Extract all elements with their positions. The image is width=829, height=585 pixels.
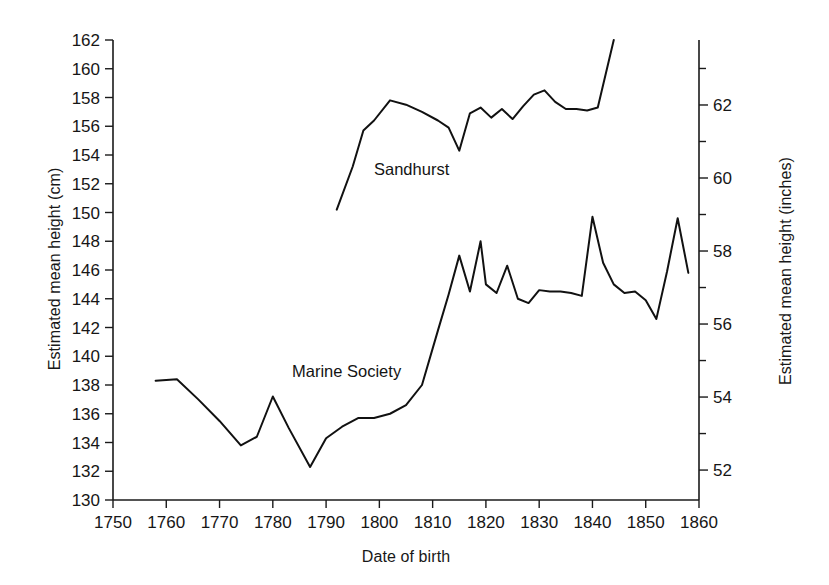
left-axis-tick-labels: 1301321341361381401421441461481501521541… — [72, 31, 100, 510]
x-tick-label: 1810 — [414, 513, 452, 532]
y-tick-label-left: 150 — [72, 204, 100, 223]
series-line-sandhurst — [337, 40, 614, 210]
x-tick-label: 1850 — [627, 513, 665, 532]
y-tick-label-left: 154 — [72, 146, 100, 165]
y-tick-label-left: 140 — [72, 347, 100, 366]
y-axis-title-left: Estimated mean height (cm) — [46, 119, 64, 419]
axes — [113, 40, 699, 500]
x-tick-label: 1790 — [307, 513, 345, 532]
y-tick-label-left: 130 — [72, 491, 100, 510]
chart-figure: 1301321341361381401421441461481501521541… — [0, 0, 829, 585]
y-tick-label-left: 132 — [72, 462, 100, 481]
y-tick-label-right: 60 — [713, 169, 732, 188]
y-tick-label-left: 138 — [72, 376, 100, 395]
left-axis-ticks — [105, 40, 113, 500]
y-axis-title-right: Estimated mean height (inches) — [777, 121, 795, 421]
y-tick-label-left: 158 — [72, 89, 100, 108]
x-axis-title: Date of birth — [113, 548, 699, 566]
x-tick-label: 1770 — [201, 513, 239, 532]
right-axis-ticks — [699, 68, 708, 470]
y-tick-label-left: 146 — [72, 261, 100, 280]
x-tick-label: 1820 — [467, 513, 505, 532]
series-line-marine-society — [156, 217, 689, 467]
bottom-axis-tick-labels: 1750176017701780179018001810182018301840… — [94, 513, 718, 532]
x-tick-label: 1840 — [574, 513, 612, 532]
x-tick-label: 1760 — [147, 513, 185, 532]
y-tick-label-left: 152 — [72, 175, 100, 194]
y-tick-label-left: 134 — [72, 434, 100, 453]
y-tick-label-left: 162 — [72, 31, 100, 50]
chart-plot-area: 1301321341361381401421441461481501521541… — [0, 0, 829, 585]
x-tick-label: 1830 — [520, 513, 558, 532]
y-tick-label-left: 136 — [72, 405, 100, 424]
y-tick-label-left: 160 — [72, 60, 100, 79]
y-tick-label-right: 52 — [713, 461, 732, 480]
y-tick-label-right: 58 — [713, 242, 732, 261]
x-tick-label: 1780 — [254, 513, 292, 532]
x-tick-label: 1800 — [360, 513, 398, 532]
y-tick-label-left: 156 — [72, 117, 100, 136]
series-label-marine-society: Marine Society — [292, 362, 401, 381]
y-tick-label-right: 56 — [713, 315, 732, 334]
series-label-sandhurst: Sandhurst — [374, 160, 449, 179]
x-tick-label: 1860 — [680, 513, 718, 532]
y-tick-label-right: 62 — [713, 96, 732, 115]
right-axis-tick-labels: 525456586062 — [713, 96, 732, 480]
bottom-axis-ticks — [113, 500, 699, 508]
y-tick-label-left: 148 — [72, 232, 100, 251]
y-tick-label-right: 54 — [713, 388, 732, 407]
y-tick-label-left: 142 — [72, 319, 100, 338]
y-tick-label-left: 144 — [72, 290, 100, 309]
x-tick-label: 1750 — [94, 513, 132, 532]
data-series-group — [156, 40, 689, 467]
